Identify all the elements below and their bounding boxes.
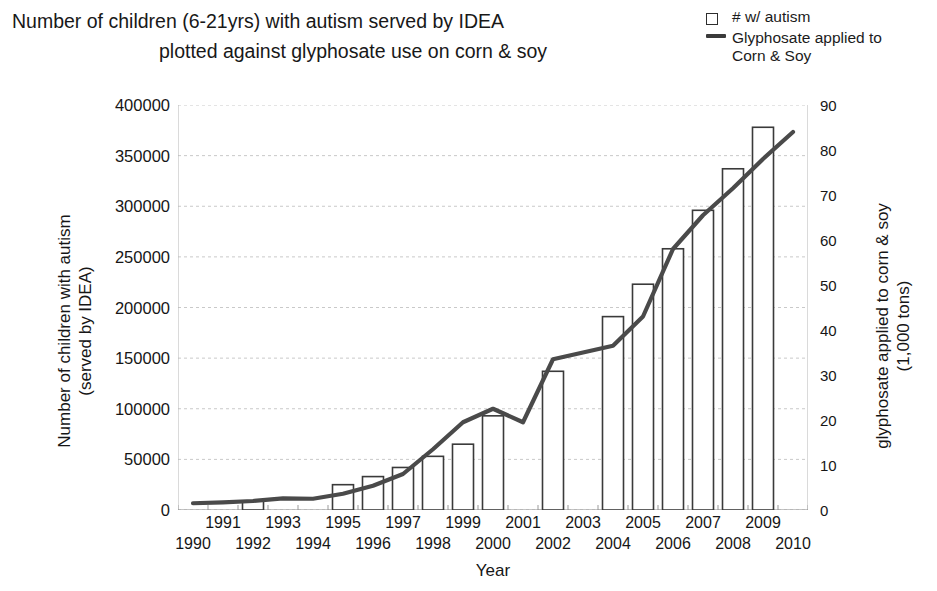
y-axis-right-tick-label: 90	[820, 97, 837, 114]
x-axis-tick-label: 1999	[440, 514, 486, 532]
line-swatch-icon	[706, 29, 732, 38]
x-axis-tick-label: 2002	[530, 535, 576, 553]
chart-title: Number of children (6-21yrs) with autism…	[8, 6, 698, 66]
y-axis-right-tick-label: 30	[820, 367, 837, 384]
bar-rect	[753, 127, 774, 510]
bar-rect	[543, 371, 564, 510]
x-axis-tick-label: 2005	[620, 514, 666, 532]
bar	[753, 127, 774, 510]
bar	[723, 169, 744, 510]
y-axis-right-title: glyphosate applied to corn & soy (1,000 …	[872, 126, 914, 526]
y-axis-right-ticks: 0102030405060708090	[820, 105, 860, 510]
x-axis-tick-label: 2000	[470, 535, 516, 553]
chart-figure: Number of children (6-21yrs) with autism…	[0, 0, 937, 591]
bar-rect	[483, 416, 504, 510]
y-axis-left-tick-label: 150000	[115, 349, 170, 368]
bar-rect	[663, 249, 684, 510]
x-axis-title: Year	[178, 561, 808, 581]
bar-rect	[453, 444, 474, 510]
y-axis-right-tick-label: 80	[820, 142, 837, 159]
y-axis-right-tick-label: 10	[820, 457, 837, 474]
x-axis-tick-label: 1995	[320, 514, 366, 532]
x-axis-tick-label: 2007	[680, 514, 726, 532]
x-axis-tick-label: 1998	[410, 535, 456, 553]
legend-item-autism: # w/ autism	[706, 8, 934, 27]
x-axis-tick-label: 2004	[590, 535, 636, 553]
y-axis-left-tick-label: 350000	[115, 147, 170, 166]
y-axis-left-tick-label: 0	[161, 501, 170, 520]
chart-legend: # w/ autism Glyphosate applied to Corn &…	[706, 8, 934, 68]
bar-rect	[723, 169, 744, 510]
y-axis-left-tick-label: 250000	[115, 248, 170, 267]
bar	[483, 416, 504, 510]
bar	[693, 210, 714, 510]
y-axis-left-tick-label: 300000	[115, 197, 170, 216]
y-axis-left-tick-label: 200000	[115, 299, 170, 318]
x-axis-tick-label: 1997	[380, 514, 426, 532]
bar	[423, 456, 444, 510]
y-axis-right-tick-label: 40	[820, 322, 837, 339]
x-axis-tick-label: 2003	[560, 514, 606, 532]
plot-area	[178, 105, 808, 510]
y-axis-right-tick-label: 70	[820, 187, 837, 204]
x-axis-tick-label: 1990	[170, 535, 216, 553]
legend-label-glyphosate: Glyphosate applied to Corn & Soy	[732, 29, 882, 66]
x-axis-tick-label: 1996	[350, 535, 396, 553]
bar	[543, 371, 564, 510]
y-axis-left-tick-label: 50000	[124, 450, 170, 469]
x-axis-tick-label: 2010	[770, 535, 816, 553]
y-axis-left-ticks: 0500001000001500002000002500003000003500…	[84, 105, 170, 510]
legend-item-glyphosate: Glyphosate applied to Corn & Soy	[706, 29, 934, 66]
bar	[333, 485, 354, 510]
chart-title-line-2: plotted against glyphosate use on corn &…	[8, 36, 698, 66]
x-axis-tick-label: 2009	[740, 514, 786, 532]
x-axis-tick-label: 1992	[230, 535, 276, 553]
y-axis-right-tick-label: 20	[820, 412, 837, 429]
open-square-icon	[706, 8, 732, 25]
plot-svg	[178, 105, 808, 510]
x-axis-ticks: 1990199119921993199419951996199719981999…	[178, 514, 808, 560]
bar	[453, 444, 474, 510]
x-axis-tick-label: 2006	[650, 535, 696, 553]
x-axis-tick-label: 2001	[500, 514, 546, 532]
legend-label-autism: # w/ autism	[732, 8, 810, 27]
chart-title-line-1: Number of children (6-21yrs) with autism…	[8, 6, 698, 36]
y-axis-right-tick-label: 50	[820, 277, 837, 294]
bar-rect	[693, 210, 714, 510]
bar-rect	[423, 456, 444, 510]
y-axis-right-tick-label: 60	[820, 232, 837, 249]
y-axis-left-tick-label: 100000	[115, 400, 170, 419]
x-axis-tick-label: 2008	[710, 535, 756, 553]
x-axis-tick-label: 1991	[200, 514, 246, 532]
y-axis-left-tick-label: 400000	[115, 96, 170, 115]
x-axis-tick-label: 1994	[290, 535, 336, 553]
y-axis-right-tick-label: 0	[820, 502, 828, 519]
x-axis-tick-label: 1993	[260, 514, 306, 532]
bar	[663, 249, 684, 510]
bar-rect	[333, 485, 354, 510]
